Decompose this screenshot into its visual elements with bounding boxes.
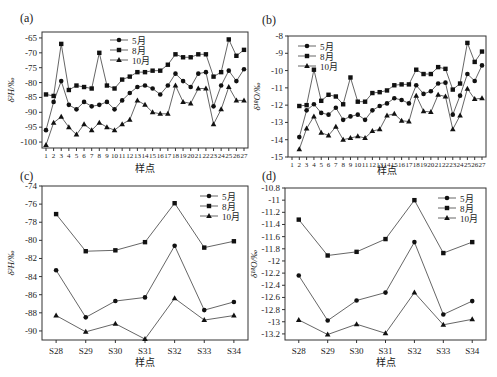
data-point-circle: [113, 299, 118, 304]
x-tick-label: 17: [164, 152, 172, 160]
y-axis-label: δ¹⁸O/‰: [252, 82, 262, 110]
data-point-circle: [334, 105, 339, 110]
y-tick-label: -11.8: [262, 244, 281, 254]
data-point-square: [51, 94, 55, 98]
data-point-circle: [325, 318, 330, 323]
panel-label: (b): [262, 13, 276, 27]
data-point-square: [458, 81, 462, 85]
data-point-triangle: [479, 95, 485, 100]
data-point-circle: [120, 98, 125, 103]
data-point-square: [441, 251, 445, 255]
x-tick-label: S33: [197, 346, 212, 356]
data-point-triangle: [234, 97, 240, 102]
series-5月: [44, 67, 247, 133]
y-tick-label: -80: [25, 78, 37, 88]
data-point-square: [143, 70, 147, 74]
data-point-square: [82, 85, 86, 89]
data-point-square: [97, 51, 101, 55]
panel-label: (d): [262, 169, 276, 183]
y-tick-label: -11: [271, 83, 283, 93]
data-point-circle: [312, 102, 317, 107]
x-tick-label: 13: [134, 152, 142, 160]
legend-marker-square: [445, 206, 449, 210]
data-point-square: [219, 70, 223, 74]
data-point-circle: [112, 107, 117, 112]
plot-frame: [285, 188, 486, 340]
data-point-circle: [407, 101, 412, 106]
data-point-circle: [188, 85, 193, 90]
data-point-triangle: [435, 92, 441, 97]
data-point-triangle: [127, 117, 133, 122]
data-point-square: [74, 83, 78, 87]
data-point-square: [370, 91, 374, 95]
x-tick-label: 2: [52, 152, 56, 160]
y-tick-label: -95: [25, 122, 37, 132]
data-point-circle: [458, 93, 463, 98]
data-point-triangle: [53, 313, 59, 318]
x-axis-label: 样点: [377, 164, 397, 176]
data-point-square: [304, 103, 308, 107]
data-point-circle: [181, 79, 186, 84]
data-point-triangle: [211, 121, 217, 126]
data-point-square: [451, 87, 455, 91]
data-point-square: [297, 104, 301, 108]
data-point-circle: [441, 312, 446, 317]
data-point-circle: [385, 101, 390, 106]
data-point-square: [181, 55, 185, 59]
legend-label: 10月: [320, 62, 338, 72]
data-point-circle: [341, 118, 346, 123]
data-point-triangle: [297, 146, 303, 151]
legend-label: 5月: [132, 36, 146, 46]
x-tick-label: 11: [119, 152, 126, 160]
x-tick-label: 6: [327, 161, 331, 169]
x-tick-label: S30: [108, 346, 123, 356]
y-tick-label: -82: [25, 253, 37, 263]
x-tick-label: S28: [49, 346, 64, 356]
x-tick-label: 11: [362, 161, 369, 169]
plot-frame: [42, 186, 248, 340]
data-point-triangle: [135, 97, 141, 102]
data-point-circle: [296, 273, 301, 278]
x-tick-label: 21: [195, 152, 203, 160]
data-point-circle: [89, 104, 94, 109]
data-point-square: [312, 68, 316, 72]
y-tick-label: -86: [25, 290, 37, 300]
data-point-square: [429, 72, 433, 76]
data-point-circle: [399, 98, 404, 103]
data-point-square: [480, 49, 484, 53]
x-tick-label: 3: [305, 161, 309, 169]
data-point-square: [363, 99, 367, 103]
data-point-square: [385, 88, 389, 92]
data-point-triangle: [104, 124, 110, 129]
data-point-triangle: [333, 124, 339, 129]
legend-marker-triangle: [206, 213, 212, 218]
y-tick-label: -15: [271, 152, 283, 162]
data-point-circle: [412, 240, 417, 245]
data-point-circle: [51, 100, 56, 105]
legend-label: 5月: [222, 192, 236, 202]
x-tick-label: 5: [75, 152, 79, 160]
y-axis-label: δ²H/‰: [6, 251, 16, 276]
data-point-square: [150, 68, 154, 72]
legend-label: 10月: [460, 214, 478, 224]
series-line: [56, 298, 234, 339]
y-tick-label: -90: [25, 326, 37, 336]
data-point-circle: [472, 79, 477, 84]
data-point-triangle: [203, 86, 209, 91]
y-tick-label: -75: [25, 63, 37, 73]
x-tick-label: 24: [218, 152, 226, 160]
data-point-square: [128, 74, 132, 78]
data-point-square: [377, 90, 381, 94]
y-axis-label: δ²H/‰: [6, 78, 16, 103]
data-point-square: [188, 55, 192, 59]
data-point-triangle: [43, 142, 49, 147]
x-tick-label: S29: [321, 346, 336, 356]
data-point-square: [443, 67, 447, 71]
data-point-triangle: [165, 111, 171, 116]
legend-label: 5月: [460, 194, 474, 204]
data-point-square: [234, 54, 238, 58]
data-point-triangle: [113, 321, 119, 326]
x-tick-label: S28: [292, 346, 307, 356]
panel-d: (d)-10.8-11-11.2-11.4-11.6-11.8-12-12.2-…: [249, 169, 486, 368]
x-tick-label: S31: [138, 346, 152, 356]
